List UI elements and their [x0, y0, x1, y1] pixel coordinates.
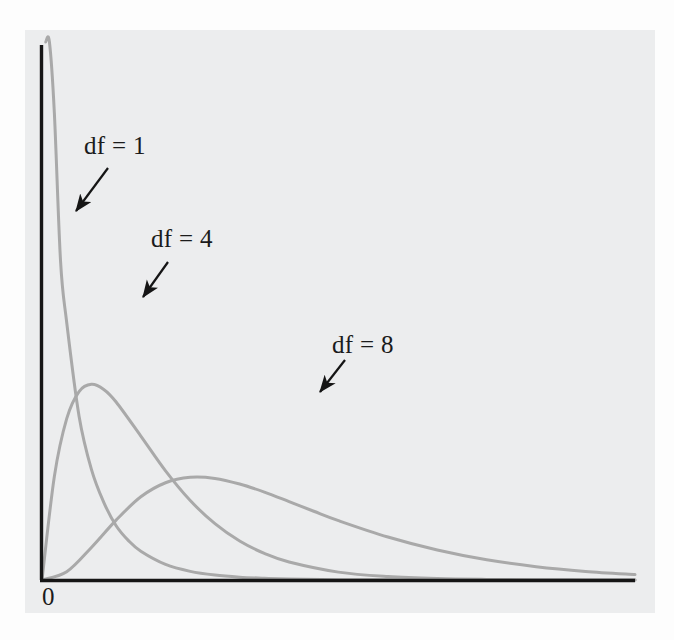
series-label-df8: df = 8 — [332, 331, 394, 359]
chart-canvas — [0, 0, 674, 640]
annotation-arrow-df4 — [143, 262, 168, 297]
annotation-arrow-df8 — [320, 360, 345, 392]
distribution-curves — [42, 37, 635, 580]
annotation-arrows — [76, 168, 345, 392]
chi-square-distribution-figure: df = 1 df = 4 df = 8 0 — [0, 0, 674, 640]
curve-df1 — [46, 37, 635, 580]
curve-df8 — [42, 477, 635, 580]
series-label-df4: df = 4 — [151, 225, 213, 253]
series-label-df1: df = 1 — [84, 132, 146, 160]
annotation-arrow-df1 — [76, 168, 108, 211]
curve-df4 — [42, 384, 635, 580]
x-axis-origin-tick-label: 0 — [42, 583, 55, 611]
